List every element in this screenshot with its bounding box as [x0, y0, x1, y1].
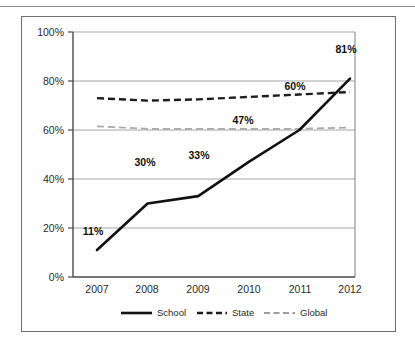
y-tick-label-80: 80% — [43, 75, 64, 87]
series-line-state — [97, 92, 350, 101]
x-tick-label-2009: 2009 — [186, 283, 210, 295]
plot-axes — [73, 32, 355, 277]
legend-label-state: State — [232, 307, 254, 318]
gridlines — [73, 32, 355, 228]
y-tick-label-60: 60% — [43, 124, 64, 136]
legend-item-school[interactable]: School — [121, 307, 186, 318]
x-tick-label-2007: 2007 — [85, 283, 109, 295]
y-tick-label-100: 100% — [37, 26, 64, 38]
legend-item-global[interactable]: Global — [264, 307, 327, 318]
data-label-2012: 81% — [335, 43, 357, 55]
data-label-2009: 33% — [188, 149, 210, 161]
data-label-2011: 60% — [284, 80, 306, 92]
y-tick-label-0: 0% — [49, 271, 64, 283]
x-tick-label-2010: 2010 — [237, 283, 261, 295]
data-point-labels: 11% 30% 33% 47% 60% 81% — [83, 43, 357, 237]
page-top-rule — [0, 6, 415, 7]
data-label-2010: 47% — [232, 114, 254, 126]
x-tick-label-2008: 2008 — [135, 283, 159, 295]
chart-page: 100% 80% 60% 40% 20% 0% 2007 2008 2009 2… — [0, 0, 415, 350]
y-axis-ticks — [68, 32, 73, 277]
legend-item-state[interactable]: State — [197, 307, 254, 318]
y-tick-label-40: 40% — [43, 173, 64, 185]
series-line-global — [97, 126, 350, 128]
x-axis-tick-labels: 2007 2008 2009 2010 2011 2012 — [85, 283, 362, 295]
data-label-2008: 30% — [134, 156, 156, 168]
x-tick-label-2012: 2012 — [338, 283, 362, 295]
y-axis-tick-labels: 100% 80% 60% 40% 20% 0% — [37, 26, 64, 283]
x-tick-label-2011: 2011 — [289, 283, 312, 295]
legend-label-school: School — [157, 307, 186, 318]
line-chart: 100% 80% 60% 40% 20% 0% 2007 2008 2009 2… — [21, 16, 396, 332]
chart-legend: School State Global — [121, 307, 327, 318]
data-label-2007: 11% — [83, 225, 104, 237]
legend-label-global: Global — [300, 307, 327, 318]
y-tick-label-20: 20% — [43, 222, 64, 234]
